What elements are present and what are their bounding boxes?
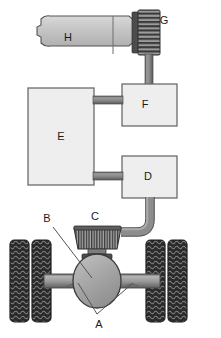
label-h: H <box>64 31 72 43</box>
label-b: B <box>43 212 50 224</box>
diagram-canvas: H G F E D <box>0 0 221 338</box>
connector-d-to-c <box>121 197 150 232</box>
pipe-e-d <box>93 172 123 180</box>
connector-e-to-f <box>93 96 123 104</box>
pipe-e-f <box>93 96 123 104</box>
component-h-engine: H <box>37 16 143 54</box>
f-rect <box>122 84 177 126</box>
label-d: D <box>144 170 152 182</box>
label-e: E <box>57 130 64 142</box>
wheel-outer-right <box>168 240 187 322</box>
component-d-box: D <box>122 156 177 198</box>
c-neck <box>88 249 106 254</box>
label-c: C <box>91 210 99 222</box>
drivetrain-diagram: H G F E D <box>0 0 221 338</box>
component-e-box: E <box>28 88 94 185</box>
label-a: A <box>95 318 103 330</box>
component-f-box: F <box>122 84 177 126</box>
label-f: F <box>142 98 149 110</box>
pipe-g-f <box>145 54 153 85</box>
component-g-gear: G <box>132 10 168 55</box>
label-g: G <box>160 14 169 26</box>
connector-g-to-f <box>145 54 153 85</box>
c-top-cap <box>74 226 121 230</box>
pipe-d-c-highlight <box>121 197 147 229</box>
g-teeth <box>138 10 160 55</box>
wheel-outer-left <box>10 240 29 322</box>
h-body <box>37 16 138 46</box>
c-knurled-body <box>74 228 121 249</box>
connector-e-to-d <box>93 172 123 180</box>
